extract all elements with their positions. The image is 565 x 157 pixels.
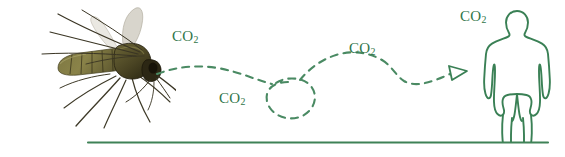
co2-label-2: CO2 <box>219 90 245 107</box>
co2-label-4: CO2 <box>460 8 486 25</box>
co2-label-3: CO2 <box>349 40 375 57</box>
mosquito-flight-path <box>157 52 450 118</box>
co2-label-1: CO2 <box>172 28 198 45</box>
human-leg-contours <box>502 94 532 142</box>
arrowhead-icon <box>449 66 467 80</box>
diagram-canvas: CO2 CO2 CO2 CO2 <box>0 0 565 157</box>
